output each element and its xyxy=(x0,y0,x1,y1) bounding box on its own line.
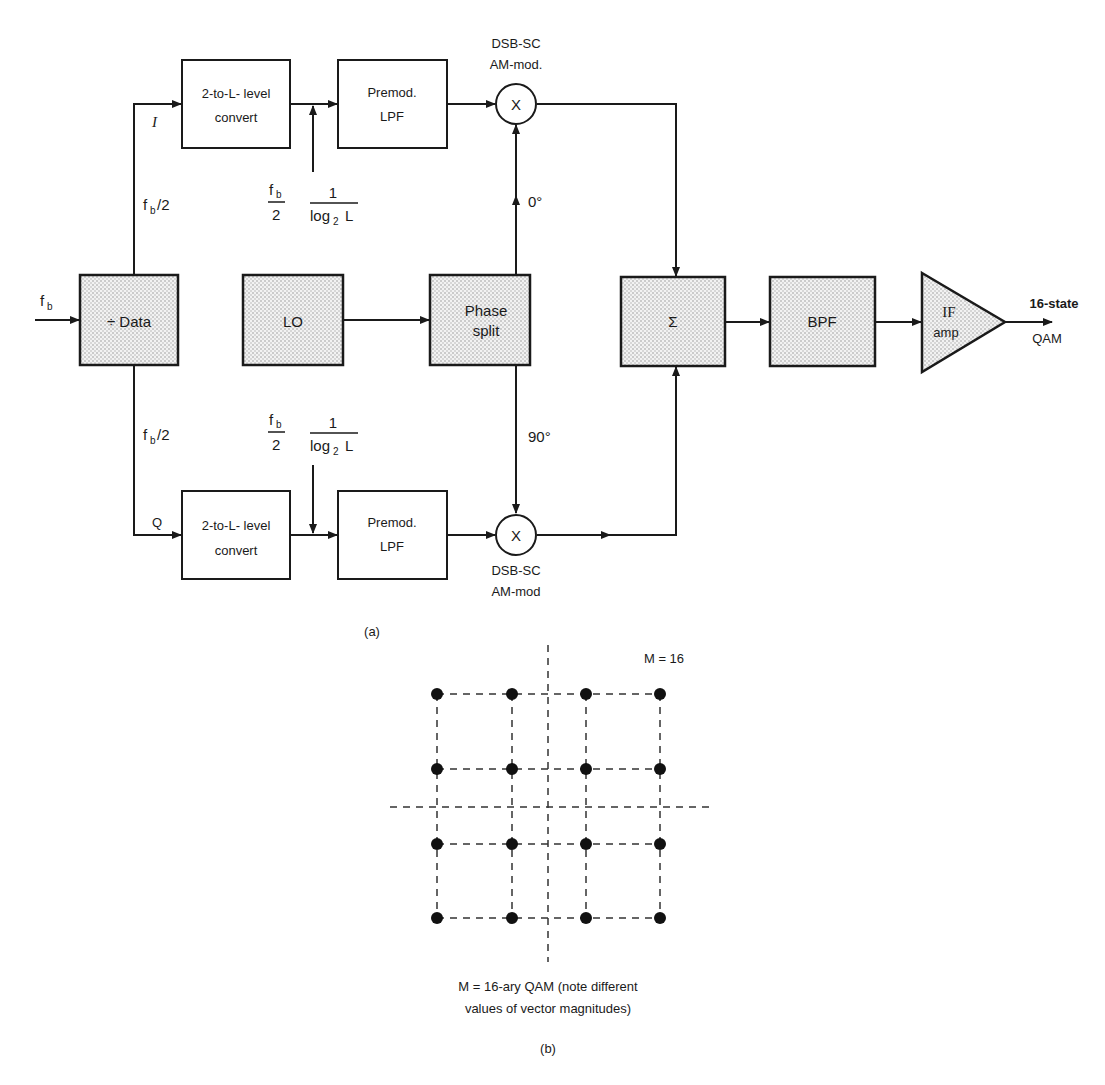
bottom-mixer-line2: AM-mod xyxy=(491,584,540,599)
svg-text:2: 2 xyxy=(272,206,280,223)
svg-text:L: L xyxy=(345,437,353,454)
bottom-mixer: X DSB-SC AM-mod xyxy=(491,515,540,599)
lo-block: LO xyxy=(243,275,343,365)
phase-0-label: 0° xyxy=(528,193,542,210)
top-converter-block: 2-to-L- level convert xyxy=(182,60,290,148)
amplifier-triangle-icon xyxy=(922,273,1005,372)
phase-split-block: Phase split xyxy=(430,275,530,365)
bottom-rate-label: f b /2 xyxy=(143,426,170,446)
top-converter-line2: convert xyxy=(215,110,258,125)
i-branch-label: I xyxy=(151,114,158,130)
svg-text:2: 2 xyxy=(333,216,339,227)
description-line1: M = 16-ary QAM (note different xyxy=(458,979,638,994)
svg-text:1: 1 xyxy=(329,414,337,431)
caption-a: (a) xyxy=(364,624,380,639)
top-clock-fraction: f b 2 1 log 2 L xyxy=(268,181,358,227)
bottom-mixer-line1: DSB-SC xyxy=(491,563,540,578)
description-line2: values of vector magnitudes) xyxy=(465,1001,631,1016)
svg-text:f: f xyxy=(143,196,148,213)
bottom-converter-line2: convert xyxy=(215,543,258,558)
top-mixer-line1: DSB-SC xyxy=(491,36,540,51)
phase-split-line1: Phase xyxy=(465,302,508,319)
phase-90-label: 90° xyxy=(528,428,551,445)
svg-text:b: b xyxy=(150,435,156,446)
svg-text:1: 1 xyxy=(329,184,337,201)
input-label: f b xyxy=(40,292,53,312)
top-mixer-symbol: X xyxy=(511,96,521,113)
if-amp-line1: IF xyxy=(942,304,955,320)
if-amp-line2: amp xyxy=(933,325,958,340)
bottom-lpf-block: Premod. LPF xyxy=(338,491,447,579)
bottom-lpf-line2: LPF xyxy=(380,539,404,554)
svg-text:/2: /2 xyxy=(157,426,170,443)
phase-split-line2: split xyxy=(473,322,501,339)
svg-text:f: f xyxy=(40,292,45,309)
bottom-lpf-line1: Premod. xyxy=(367,515,416,530)
svg-text:log: log xyxy=(310,437,330,454)
bottom-mixer-symbol: X xyxy=(511,527,521,544)
top-converter-line1: 2-to-L- level xyxy=(202,86,271,101)
if-amp-block: IF amp xyxy=(922,273,1005,372)
svg-text:b: b xyxy=(276,419,282,430)
output-label-line2: QAM xyxy=(1032,331,1062,346)
sum-label: Σ xyxy=(668,313,677,330)
svg-text:2: 2 xyxy=(333,446,339,457)
caption-b: (b) xyxy=(540,1041,556,1056)
svg-text:log: log xyxy=(310,207,330,224)
svg-text:b: b xyxy=(47,301,53,312)
bottom-converter-line1: 2-to-L- level xyxy=(202,518,271,533)
divider-label: ÷ Data xyxy=(107,313,152,330)
svg-text:b: b xyxy=(276,189,282,200)
svg-text:/2: /2 xyxy=(157,196,170,213)
sum-block: Σ xyxy=(621,277,725,366)
bpf-block: BPF xyxy=(770,277,875,366)
signal-paths xyxy=(35,104,1052,535)
top-rate-label: f b /2 xyxy=(143,196,170,216)
svg-text:f: f xyxy=(143,426,148,443)
svg-text:2: 2 xyxy=(272,436,280,453)
output-label-line1: 16-state xyxy=(1029,296,1078,311)
svg-text:f: f xyxy=(269,411,274,428)
svg-text:b: b xyxy=(150,205,156,216)
top-mixer: X DSB-SC AM-mod. xyxy=(490,36,543,124)
bottom-clock-fraction: f b 2 1 log 2 L xyxy=(268,411,358,457)
svg-text:L: L xyxy=(345,207,353,224)
top-lpf-block: Premod. LPF xyxy=(338,60,447,148)
q-branch-label: Q xyxy=(152,515,162,530)
svg-text:f: f xyxy=(269,181,274,198)
m-label: M = 16 xyxy=(644,651,684,666)
top-lpf-line1: Premod. xyxy=(367,85,416,100)
lo-label: LO xyxy=(283,313,303,330)
divider-block: ÷ Data xyxy=(80,275,178,365)
qam-modulator-figure: ÷ Data LO Phase split Σ BPF IF amp 2-to-… xyxy=(0,0,1105,1085)
top-lpf-line2: LPF xyxy=(380,109,404,124)
top-mixer-line2: AM-mod. xyxy=(490,57,543,72)
bpf-label: BPF xyxy=(807,313,836,330)
bottom-converter-block: 2-to-L- level convert xyxy=(182,491,290,579)
